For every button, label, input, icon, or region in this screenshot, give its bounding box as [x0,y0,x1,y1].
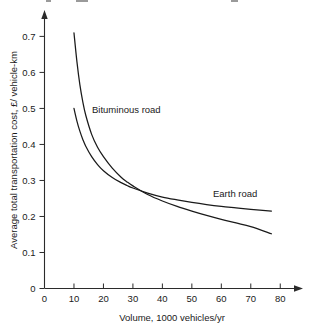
y-axis-ticks: 00.10.20.30.40.50.60.7 [22,31,44,294]
x-axis [45,285,304,291]
series-annotation-earth-road: Earth road [213,188,257,199]
x-tick-label: 70 [246,293,257,304]
y-axis [41,10,47,288]
y-tick-label: 0 [30,283,35,294]
y-tick-label: 0.1 [22,247,35,258]
y-tick-label: 0.2 [22,211,35,222]
figure-container: 00.10.20.30.40.50.60.7 01020304050607080… [0,0,316,328]
y-tick-label: 0.3 [22,175,35,186]
x-axis-title: Volume, 1000 vehicles/yr [119,312,225,323]
x-axis-ticks: 01020304050607080 [42,284,286,304]
series-annotation-bituminous-road: Bituminous road [92,104,161,115]
x-tick-label: 10 [69,293,80,304]
x-tick-label: 30 [128,293,139,304]
x-tick-label: 60 [216,293,227,304]
x-axis-arrow-icon [294,285,303,291]
y-tick-label: 0.6 [22,67,35,78]
y-tick-label: 0.4 [22,139,35,150]
chart-plot-area: 00.10.20.30.40.50.60.7 01020304050607080… [0,0,316,328]
y-axis-arrow-icon [41,10,47,19]
x-tick-label: 80 [275,293,286,304]
y-tick-label: 0.5 [22,103,35,114]
x-tick-label: 0 [42,293,47,304]
x-tick-label: 40 [157,293,168,304]
x-tick-label: 20 [98,293,109,304]
y-tick-label: 0.7 [22,31,35,42]
y-axis-title: Average total transportation cost, £/ ve… [8,51,19,249]
x-tick-label: 50 [187,293,198,304]
series-line-bituminous-road [74,33,271,234]
